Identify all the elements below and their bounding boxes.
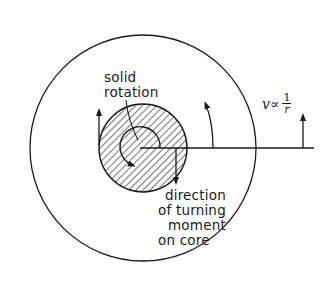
solid-rotation-line1: solid — [104, 70, 159, 85]
velocity-prefix: v∝ — [262, 96, 279, 112]
solid-rotation-label: solid rotation — [104, 70, 159, 100]
turning-moment-line2: of turning — [158, 203, 226, 218]
turning-moment-line3: moment — [158, 218, 226, 233]
turning-moment-label: direction of turning moment on core — [158, 188, 226, 248]
turning-moment-line4: on core — [158, 233, 226, 248]
turning-moment-line1: direction — [158, 188, 226, 203]
fraction-denominator: r — [284, 104, 289, 115]
fraction: 1 r — [282, 92, 291, 115]
velocity-relation-label: v∝ 1 r — [262, 92, 291, 115]
outer-flow-arrow-icon — [206, 105, 213, 148]
solid-rotation-line2: rotation — [104, 85, 159, 100]
